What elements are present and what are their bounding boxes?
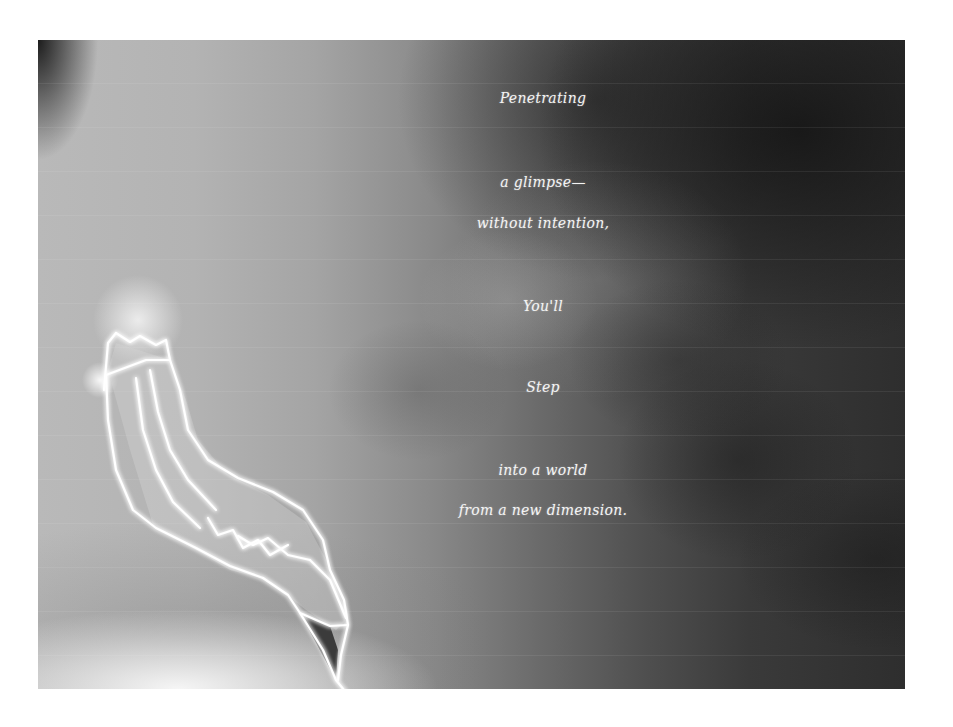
- page: Penetrating a glimpse— without intention…: [0, 0, 953, 727]
- poem: Penetrating a glimpse— without intention…: [38, 40, 905, 689]
- poem-line-7: from a new dimension.: [343, 502, 743, 518]
- poem-line-3: without intention,: [343, 215, 743, 231]
- poem-line-5: Step: [343, 379, 743, 395]
- poem-line-6: into a world: [343, 462, 743, 478]
- poem-line-1: Penetrating: [343, 90, 743, 106]
- poem-line-2: a glimpse—: [343, 174, 743, 190]
- artwork: Penetrating a glimpse— without intention…: [38, 40, 905, 689]
- poem-line-4: You'll: [343, 298, 743, 314]
